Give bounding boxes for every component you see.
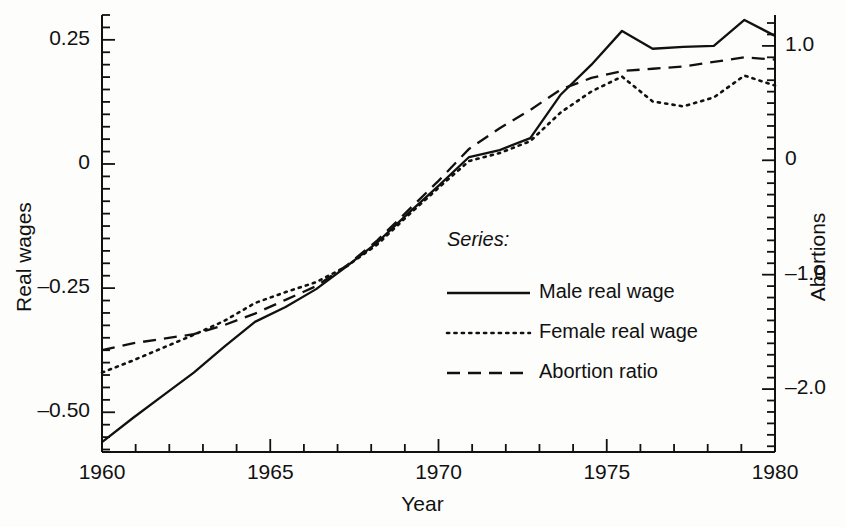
y-axis-label-left: Real wages — [12, 177, 36, 337]
legend-title: Series: — [447, 228, 509, 251]
y-tick-label-right: 0 — [785, 146, 797, 170]
y-tick-label-right: 1.0 — [785, 32, 814, 56]
axes-frame — [102, 15, 775, 452]
x-axis-label: Year — [0, 492, 845, 516]
legend-entry-label: Abortion ratio — [539, 360, 658, 383]
legend-swatch-group — [447, 293, 530, 373]
series-line-solid — [102, 20, 775, 442]
y-tick-label-right: –2.0 — [785, 375, 826, 399]
y-tick-label-left: 0 — [0, 150, 90, 174]
x-tick-label: 1980 — [715, 460, 835, 484]
x-tick-label: 1970 — [379, 460, 499, 484]
legend-entry-label: Female real wage — [539, 320, 698, 343]
chart-plot-area — [0, 0, 845, 527]
right-axis-ticks — [762, 23, 775, 446]
left-axis-ticks — [102, 15, 115, 450]
x-tick-label: 1965 — [210, 460, 330, 484]
y-axis-label-right: Abortions — [806, 177, 830, 337]
y-tick-label-left: –0.50 — [0, 398, 90, 422]
y-tick-label-left: 0.25 — [0, 26, 90, 50]
data-series-group — [102, 20, 775, 442]
x-tick-label: 1975 — [547, 460, 667, 484]
x-tick-label: 1960 — [42, 460, 162, 484]
legend-entry-label: Male real wage — [539, 280, 675, 303]
series-line-dashed — [102, 57, 775, 350]
y-tick-label-left: –0.25 — [0, 274, 90, 298]
chart-figure: Real wages Abortions Year Series: Male r… — [0, 0, 845, 527]
bottom-axis-ticks — [102, 439, 775, 452]
y-tick-label-right: –1.0 — [785, 261, 826, 285]
